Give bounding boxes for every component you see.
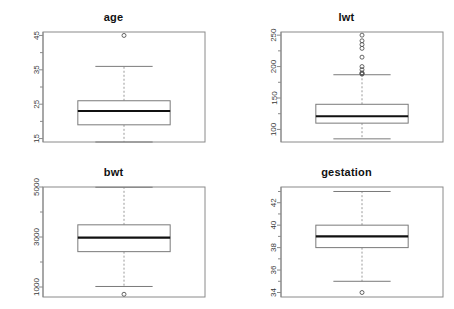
panel-title-bwt: bwt — [0, 166, 227, 178]
boxplot-svg-bwt: 100030005000 — [0, 155, 227, 309]
y-tick-label: 25 — [32, 99, 41, 108]
panel-lwt: lwt 100150200250 — [227, 0, 454, 155]
y-tick-label: 5000 — [32, 178, 41, 196]
panel-title-age: age — [0, 11, 227, 23]
y-tick-label: 3000 — [32, 228, 41, 246]
outlier-point — [122, 33, 126, 37]
plot-area-lwt: 100150200250 — [270, 28, 444, 142]
y-tick-label: 100 — [270, 122, 279, 136]
y-tick-label: 1000 — [32, 278, 41, 296]
panel-gestation: gestation 3436384042 — [227, 155, 454, 309]
outlier-point — [360, 55, 364, 59]
plot-area-age: 15253545 — [32, 30, 206, 143]
y-tick-label: 42 — [270, 198, 279, 207]
boxplot-svg-age: 15253545 — [0, 0, 227, 155]
y-tick-label: 36 — [270, 265, 279, 274]
plot-area-gestation: 3436384042 — [270, 187, 444, 297]
outlier-point — [360, 291, 364, 295]
iqr-box — [78, 101, 170, 125]
y-tick-label: 40 — [270, 220, 279, 229]
y-tick-label: 250 — [270, 28, 279, 42]
panel-age: age 15253545 — [0, 0, 227, 155]
panel-bwt: bwt 100030005000 — [0, 155, 227, 309]
y-tick-label: 15 — [32, 134, 41, 143]
plot-area-bwt: 100030005000 — [32, 178, 206, 297]
y-tick-label: 200 — [270, 59, 279, 73]
boxplot-svg-lwt: 100150200250 — [227, 0, 454, 155]
boxplot-svg-gestation: 3436384042 — [227, 155, 454, 309]
panel-title-gestation: gestation — [227, 166, 454, 178]
panel-title-lwt: lwt — [227, 11, 454, 23]
y-tick-label: 35 — [32, 65, 41, 74]
y-tick-label: 34 — [270, 288, 279, 297]
outlier-point — [360, 33, 364, 37]
panel-grid: age 15253545 lwt 100150200250 bwt 100030… — [0, 0, 454, 309]
y-tick-label: 38 — [270, 243, 279, 252]
y-tick-label: 45 — [32, 30, 41, 39]
boxplot-figure: age 15253545 lwt 100150200250 bwt 100030… — [0, 0, 454, 309]
y-tick-label: 150 — [270, 91, 279, 105]
iqr-box — [316, 104, 408, 123]
outlier-point — [122, 292, 126, 296]
